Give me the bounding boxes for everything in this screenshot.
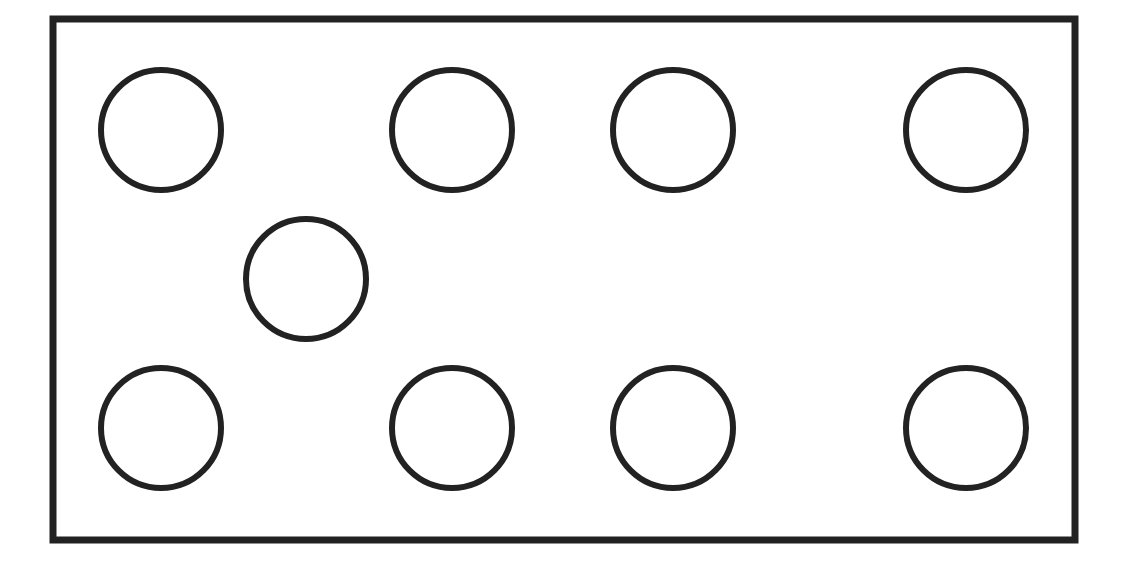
- circle-top-4: [906, 70, 1026, 190]
- circle-top-1: [101, 70, 221, 190]
- circle-top-2: [392, 70, 512, 190]
- frame-rectangle: [53, 19, 1075, 540]
- circle-bottom-1: [101, 368, 221, 488]
- circle-group: [101, 70, 1026, 488]
- circle-top-3: [613, 70, 733, 190]
- circle-middle-1: [246, 219, 366, 339]
- circle-bottom-3: [613, 368, 733, 488]
- circle-bottom-4: [906, 368, 1026, 488]
- circle-bottom-2: [392, 368, 512, 488]
- diagram-canvas: [0, 0, 1127, 566]
